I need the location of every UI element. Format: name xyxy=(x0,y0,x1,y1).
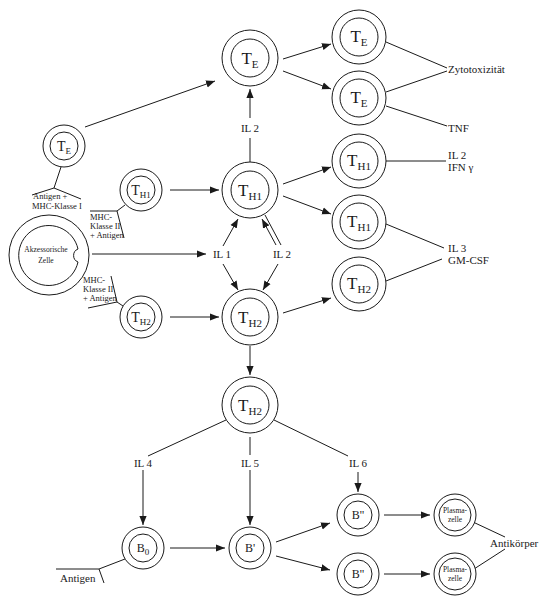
svg-text:zelle: zelle xyxy=(448,515,463,524)
cell-te-top: TE xyxy=(222,30,278,86)
label-antigen-mhc1-1: Antigen + xyxy=(33,191,68,201)
label-mhc2-bottom-3: + Antigen xyxy=(83,293,118,303)
svg-text:B'': B'' xyxy=(352,567,364,581)
line-plasma-2-antikoerper xyxy=(474,549,505,569)
cell-te-right-2: TE xyxy=(332,71,386,125)
label-il6: IL 6 xyxy=(349,457,368,469)
cell-th2-left: TH2 xyxy=(120,296,162,338)
cell-plasma-1: Plasma- zelle xyxy=(434,494,476,536)
line-th2-il3 xyxy=(386,259,442,281)
cell-te-left: TE xyxy=(43,125,85,167)
arrow-il1-to-th1 xyxy=(223,219,238,246)
accessory-label-2: Zelle xyxy=(38,256,54,265)
line-th2-lower-to-il6 xyxy=(274,420,348,456)
label-antikoerper: Antikörper xyxy=(490,537,539,549)
label-il2-mid: IL 2 xyxy=(273,248,291,260)
line-th2-left-mhc2 xyxy=(117,302,123,306)
arrow-th2-to-th2-right xyxy=(283,298,331,313)
cell-b-prime: B' xyxy=(229,527,271,569)
line-b0-antigen xyxy=(99,559,125,569)
cell-th2-lower: TH2 xyxy=(222,377,278,433)
cell-th1-left: TH1 xyxy=(120,169,162,211)
arrow-te-left-to-te-top xyxy=(85,81,215,127)
svg-text:B': B' xyxy=(245,541,255,555)
line-te1-zytotoxizitaet xyxy=(386,42,447,68)
label-zytotoxizitaet: Zytotoxizität xyxy=(448,63,505,75)
svg-text:zelle: zelle xyxy=(448,574,463,583)
line-th2-lower-to-il4 xyxy=(148,420,226,456)
arrow-te-top-to-te-right-2 xyxy=(283,71,331,89)
svg-text:Plasma-: Plasma- xyxy=(443,565,468,574)
label-mhc2-top-3: + Antigen xyxy=(90,230,125,240)
cell-th1-right-2: TH1 xyxy=(332,195,386,249)
cell-accessory: Akzessorische Zelle xyxy=(9,215,89,295)
cell-th2-center: TH2 xyxy=(222,289,278,345)
svg-text:Plasma-: Plasma- xyxy=(443,506,468,515)
arrow-il2-mid-to-th2 xyxy=(263,264,278,290)
arrow-b-prime-to-b-double-2 xyxy=(276,556,330,570)
line-te2-zytotoxizitaet xyxy=(386,71,447,92)
cell-b0: B0 xyxy=(122,527,164,569)
label-il1: IL 1 xyxy=(213,248,231,260)
label-antigen-mhc1-2: MHC-Klasse I xyxy=(32,201,82,211)
cell-te-right-1: TE xyxy=(332,10,386,64)
arrow-th1-to-th1-right-1 xyxy=(283,167,331,184)
cell-th1-center: TH1 xyxy=(222,162,278,218)
label-tnf: TNF xyxy=(448,122,469,134)
label-il3-2: GM-CSF xyxy=(448,254,489,266)
arrow-il1-to-th2 xyxy=(223,264,238,290)
label-il5: IL 5 xyxy=(241,457,260,469)
line-th1-il3 xyxy=(386,224,444,248)
line-plasma-1-antikoerper xyxy=(473,522,505,537)
arrow-te-top-to-te-right-1 xyxy=(283,44,331,59)
cell-th1-right-1: TH1 xyxy=(332,134,386,188)
line-te2-tnf xyxy=(386,106,447,126)
label-il2-ifn-1: IL 2 xyxy=(448,149,466,161)
label-il2-ifn-2: IFN γ xyxy=(448,161,473,173)
arrow-th1-to-th1-right-2 xyxy=(283,196,331,214)
cell-b-double-1: B'' xyxy=(337,494,379,536)
label-il4: IL 4 xyxy=(134,457,153,469)
label-il2-top: IL 2 xyxy=(241,122,259,134)
cell-b-double-2: B'' xyxy=(337,553,379,595)
label-antigen-b: Antigen xyxy=(60,572,96,584)
svg-text:B'': B'' xyxy=(352,508,364,522)
cell-th2-right: TH2 xyxy=(332,257,386,311)
accessory-label-1: Akzessorische xyxy=(24,245,68,254)
line-th1-left-mhc2 xyxy=(117,205,125,211)
label-il3-1: IL 3 xyxy=(448,242,467,254)
line-te-left-antigen xyxy=(54,167,61,188)
cell-plasma-2: Plasma- zelle xyxy=(434,553,476,595)
immune-response-diagram: TE TE TE TH1 TH1 TH2 TE TH1 xyxy=(0,0,544,598)
arrow-b-prime-to-b-double-1 xyxy=(276,523,330,542)
